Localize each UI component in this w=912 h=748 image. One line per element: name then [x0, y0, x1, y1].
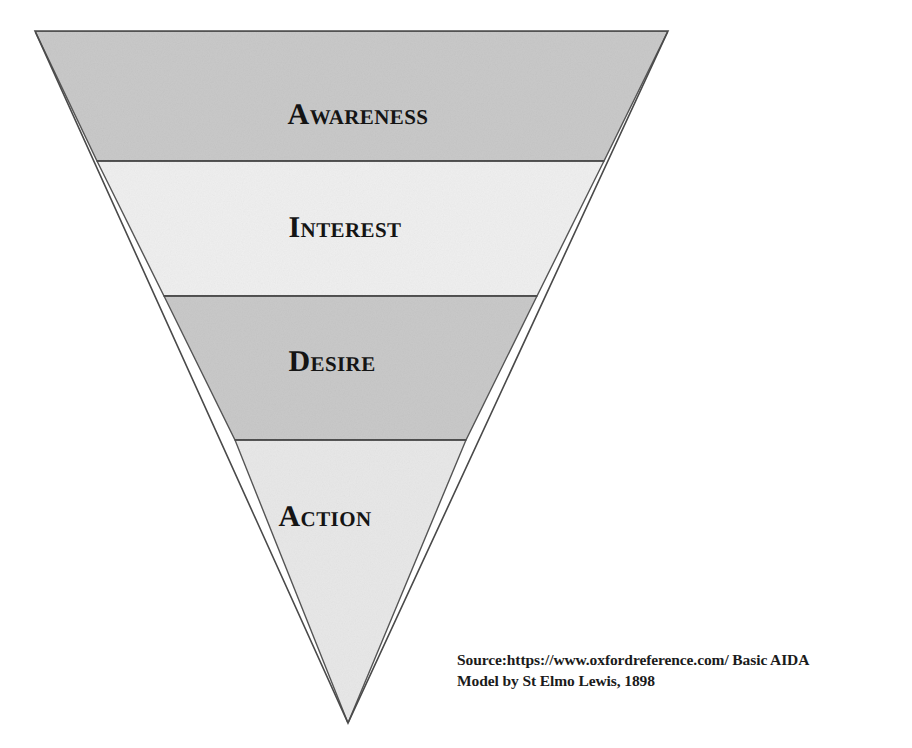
- funnel-band-action: [235, 440, 466, 723]
- funnel-stage-label-action: Action: [279, 502, 372, 532]
- funnel-stage-label-desire: Desire: [288, 347, 375, 377]
- funnel-stage-label-interest: Interest: [289, 213, 402, 243]
- source-caption-line-2: Model by St Elmo Lewis, 1898: [457, 671, 877, 692]
- aida-funnel-graphic: [0, 0, 912, 748]
- diagram-canvas: Awareness Interest Desire Action Source:…: [0, 0, 912, 748]
- source-caption-line-1: Source:https://www.oxfordreference.com/ …: [457, 650, 877, 671]
- funnel-stage-label-awareness: Awareness: [288, 100, 429, 130]
- funnel-band-awareness: [35, 31, 668, 161]
- source-caption: Source:https://www.oxfordreference.com/ …: [457, 650, 877, 691]
